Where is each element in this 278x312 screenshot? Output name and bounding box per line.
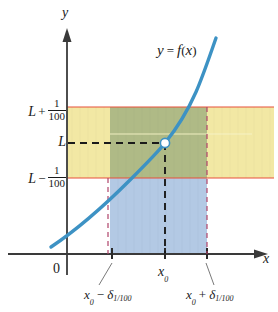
lower-bound-lead: L xyxy=(28,172,36,186)
leader-line-left xyxy=(99,263,112,285)
lower-bound-numerator: 1 xyxy=(48,165,67,177)
equation-paren-close: ) xyxy=(192,43,196,58)
x-tick-label-x0-plus-delta: x0+δ1/100 xyxy=(186,288,233,305)
y-axis-arrowhead xyxy=(63,28,72,42)
upper-bound-denominator: 100 xyxy=(48,111,67,123)
x0-plus-base: x xyxy=(186,287,192,302)
x0-minus-operator: − xyxy=(94,287,107,302)
y-tick-label-lower-bound: L − 1 100 xyxy=(0,166,66,191)
origin-label: 0 xyxy=(53,262,60,276)
vertical-delta-band xyxy=(110,178,207,254)
equation-y: y xyxy=(157,42,164,58)
delta-subscript-right: 1/100 xyxy=(215,294,233,303)
x0-minus-base-subscript: 0 xyxy=(90,298,94,307)
x0-minus-base: x xyxy=(84,287,90,302)
y-axis-label: y xyxy=(62,6,68,20)
delta-subscript-left: 1/100 xyxy=(113,294,131,303)
limit-point-marker xyxy=(160,138,169,147)
x-axis-label: x xyxy=(263,252,269,266)
upper-bound-operator: + xyxy=(38,105,45,118)
equation-equals: = xyxy=(164,43,177,58)
lower-bound-operator: − xyxy=(38,172,45,185)
lower-bound-fraction: 1 100 xyxy=(48,165,67,190)
x0-plus-base-subscript: 0 xyxy=(192,298,196,307)
x0-plus-operator: + xyxy=(196,287,209,302)
x-tick-label-x0: x0 xyxy=(158,265,168,282)
upper-bound-lead: L xyxy=(28,105,36,119)
epsilon-delta-limit-figure: y x 0 L + 1 100 L L − 1 100 x0 xyxy=(0,0,278,312)
upper-bound-fraction: 1 100 xyxy=(48,98,67,123)
y-tick-label-limit: L xyxy=(0,135,66,149)
x-tick-label-x0-minus-delta: x0−δ1/100 xyxy=(84,288,131,305)
leader-line-right xyxy=(206,263,214,285)
y-tick-label-upper-bound: L + 1 100 xyxy=(0,99,66,124)
lower-bound-denominator: 100 xyxy=(48,178,67,190)
upper-bound-numerator: 1 xyxy=(48,98,67,110)
curve-equation-label: y=f(x) xyxy=(157,43,197,58)
x0-subscript: 0 xyxy=(164,275,168,284)
figure-canvas xyxy=(0,0,278,312)
